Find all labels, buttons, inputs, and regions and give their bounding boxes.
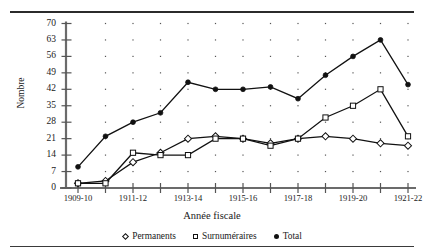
y-tick-label: 70: [32, 18, 56, 28]
y-tick-label: 7: [32, 166, 56, 176]
y-tick-label: 14: [32, 149, 56, 159]
legend-label: Total: [283, 231, 302, 241]
y-tick-label: 63: [32, 34, 56, 44]
axes: [60, 22, 416, 194]
square-open-icon: [192, 233, 199, 240]
chart-legend: PermanentsSurnumérairesTotal: [0, 231, 424, 241]
figure-chart: Nombre Année fiscale PermanentsSurnuméra…: [0, 0, 424, 249]
legend-label: Surnuméraires: [202, 231, 257, 241]
diamond-open-icon: [122, 233, 129, 240]
x-tick-label: 1919-20: [329, 193, 377, 203]
series-total: [76, 38, 411, 170]
x-tick-label: 1917-18: [274, 193, 322, 203]
x-axis-title: Année fiscale: [0, 210, 424, 221]
y-tick-label: 28: [32, 116, 56, 126]
legend-item: Permanents: [122, 231, 176, 241]
legend-item: Total: [273, 231, 302, 241]
y-tick-label: 0: [32, 182, 56, 192]
y-tick-label: 21: [32, 133, 56, 143]
y-tick-label: 35: [32, 100, 56, 110]
legend-item: Surnuméraires: [192, 231, 257, 241]
x-tick-label: 1915-16: [219, 193, 267, 203]
bottom-rule-divider: [10, 246, 414, 247]
y-tick-label: 49: [32, 67, 56, 77]
x-tick-label: 1921-22: [384, 193, 424, 203]
y-tick-label: 42: [32, 83, 56, 93]
circle-filled-icon: [273, 233, 280, 240]
x-tick-label: 1909-10: [54, 193, 102, 203]
x-tick-label: 1913-14: [164, 193, 212, 203]
x-tick-label: 1911-12: [109, 193, 157, 203]
legend-label: Permanents: [132, 231, 176, 241]
y-axis-title: Nombre: [16, 63, 26, 123]
y-tick-label: 56: [32, 50, 56, 60]
grid-dots: [105, 23, 409, 172]
